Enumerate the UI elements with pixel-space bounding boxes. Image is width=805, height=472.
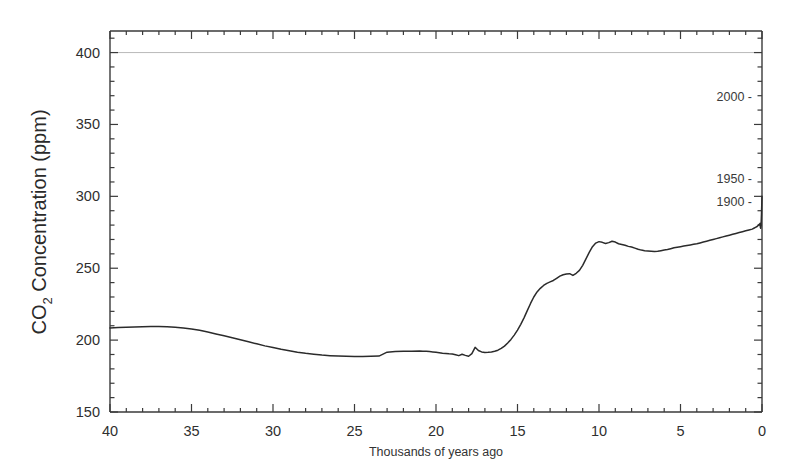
co2-concentration-chart: 150200250300350400 4035302520151050 2000…	[0, 0, 805, 472]
x-tick-label-25: 25	[346, 423, 362, 439]
y-tick-label-300: 300	[76, 188, 100, 204]
y-tick-label-200: 200	[76, 332, 100, 348]
y-tick-label-400: 400	[76, 45, 100, 61]
x-tick-label-15: 15	[509, 423, 525, 439]
chart-canvas: 150200250300350400 4035302520151050 2000…	[0, 0, 805, 472]
x-tick-label-10: 10	[591, 423, 607, 439]
y-axis-title-main: CO	[28, 305, 50, 335]
annotation-year-2000: 2000 -	[717, 90, 752, 104]
y-tick-label-150: 150	[76, 404, 100, 420]
y-tick-label-250: 250	[76, 260, 100, 276]
y-axis-title-subscript: 2	[40, 297, 55, 304]
figure-background	[0, 0, 805, 472]
x-tick-label-0: 0	[758, 423, 766, 439]
x-axis-title: Thousands of years ago	[369, 445, 503, 459]
x-tick-label-30: 30	[265, 423, 281, 439]
x-tick-label-35: 35	[183, 423, 199, 439]
x-tick-label-5: 5	[676, 423, 684, 439]
annotation-year-1900: 1900 -	[717, 195, 752, 209]
x-tick-label-40: 40	[102, 423, 118, 439]
annotation-year-1950: 1950 -	[717, 172, 752, 186]
y-tick-label-350: 350	[76, 116, 100, 132]
x-tick-label-20: 20	[428, 423, 444, 439]
y-axis-title-rest: Concentration (ppm)	[28, 109, 50, 297]
